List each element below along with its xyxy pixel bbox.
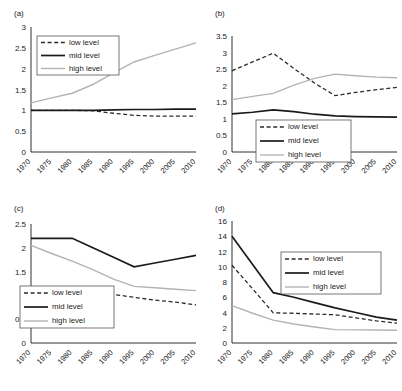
legend-label-high-level: high level (69, 64, 102, 73)
panel-label-a: (a) (14, 9, 24, 18)
legend-label-high-level: high level (52, 316, 85, 325)
x-tick-label: 2005 (360, 157, 378, 175)
chart-panel-d: (d) 0246810121416 1970197519801985199019… (201, 195, 402, 391)
x-tick-label: 2010 (380, 157, 398, 175)
y-tick-label: 6 (223, 293, 228, 302)
y-tick-label: 1.5 (216, 98, 228, 107)
panel-label-b: (b) (215, 9, 225, 18)
series-line-mid-level (31, 109, 196, 110)
panel-b-tag-group: (b) (215, 9, 225, 18)
series-line-low-level (31, 110, 196, 116)
x-tick-label: 1975 (236, 157, 254, 175)
legend-label-low-level: low level (69, 38, 99, 47)
x-tick-label: 1980 (257, 348, 275, 366)
panel-a-svg: (a) 00.511.522.53 1970197519801985199019… (0, 0, 201, 196)
x-tick-label: 2005 (360, 348, 378, 366)
y-tick-label: 12 (218, 248, 227, 257)
legend-label-mid-level: mid level (313, 268, 344, 277)
panel-c-y-axis-ticks: 00.511.522.5 (15, 220, 27, 348)
panel-d-legend: low levelmid levelhigh level (281, 252, 381, 294)
x-tick-label: 1980 (56, 157, 74, 175)
panel-d-y-axis-ticks: 0246810121416 (218, 217, 227, 348)
x-tick-label: 2000 (138, 157, 156, 175)
series-line-mid-level (232, 110, 397, 117)
y-tick-label: 4 (223, 309, 228, 318)
panel-label-c: (c) (14, 204, 24, 213)
legend-label-high-level: high level (288, 150, 321, 159)
y-tick-label: 3 (223, 49, 228, 58)
y-tick-label: 16 (218, 217, 227, 226)
panel-a-legend: low levelmid levelhigh level (37, 36, 119, 75)
x-tick-label: 1975 (35, 157, 53, 175)
y-tick-label: 1 (22, 106, 27, 115)
panel-c-tag-group: (c) (14, 204, 24, 213)
x-tick-label: 1975 (236, 348, 254, 366)
y-tick-label: 0 (223, 339, 228, 348)
panel-d-x-axis-ticks: 197019751980198519901995200020052010 (215, 348, 398, 366)
panel-b-legend: low levelmid levelhigh level (256, 120, 351, 162)
panel-c-legend: low levelmid levelhigh level (20, 286, 114, 328)
panel-label-d: (d) (215, 204, 225, 213)
x-tick-label: 2000 (339, 348, 357, 366)
y-tick-label: 0 (22, 339, 27, 348)
chart-panel-a: (a) 00.511.522.53 1970197519801985199019… (0, 0, 201, 196)
x-tick-label: 1995 (318, 348, 336, 366)
x-tick-label: 2010 (179, 157, 197, 175)
x-tick-label: 1970 (14, 157, 32, 175)
x-tick-label: 2010 (380, 348, 398, 366)
x-tick-label: 1985 (76, 348, 94, 366)
panel-d-tag-group: (d) (215, 204, 225, 213)
legend-label-low-level: low level (288, 122, 318, 131)
panel-d-svg: (d) 0246810121416 1970197519801985199019… (201, 195, 402, 391)
x-tick-label: 1985 (277, 348, 295, 366)
y-tick-label: 2.5 (15, 220, 27, 229)
panel-a-x-axis-ticks: 197019751980198519901995200020052010 (14, 157, 197, 175)
legend-label-mid-level: mid level (288, 136, 319, 145)
panel-c-x-axis-ticks: 197019751980198519901995200020052010 (14, 348, 197, 366)
y-tick-label: 1.5 (15, 86, 27, 95)
y-tick-label: 2 (223, 82, 228, 91)
chart-panel-c: (c) 00.511.522.5 19701975198019851990199… (0, 195, 201, 391)
y-tick-label: 14 (218, 232, 227, 241)
x-tick-label: 1990 (97, 348, 115, 366)
y-tick-label: 8 (223, 278, 228, 287)
y-tick-label: 1 (223, 115, 228, 124)
x-tick-label: 1970 (215, 348, 233, 366)
legend-label-mid-level: mid level (69, 51, 100, 60)
panel-a-tag-group: (a) (14, 9, 24, 18)
legend-label-low-level: low level (52, 288, 82, 297)
x-tick-label: 1970 (14, 348, 32, 366)
x-tick-label: 1975 (35, 348, 53, 366)
x-tick-label: 1980 (56, 348, 74, 366)
x-tick-label: 2005 (159, 157, 177, 175)
series-line-low-level (232, 53, 397, 95)
x-tick-label: 1995 (117, 348, 135, 366)
y-tick-label: 3.5 (216, 32, 228, 41)
panel-b-y-axis-ticks: 00.511.522.533.5 (216, 32, 228, 157)
y-tick-label: 2 (22, 65, 27, 74)
x-tick-label: 2000 (138, 348, 156, 366)
series-line-high-level (232, 306, 397, 331)
panel-a-y-axis-ticks: 00.511.522.53 (15, 23, 27, 157)
x-tick-label: 1970 (215, 157, 233, 175)
y-tick-label: 2.5 (216, 65, 228, 74)
x-tick-label: 1990 (298, 348, 316, 366)
series-line-high-level (31, 245, 196, 290)
y-tick-label: 0 (223, 148, 228, 157)
panel-b-svg: (b) 00.511.522.533.5 1970197519801985199… (201, 0, 402, 196)
y-tick-label: 0.5 (216, 131, 228, 140)
panel-b-series-lines (232, 53, 397, 117)
y-tick-label: 3 (22, 23, 27, 32)
legend-label-low-level: low level (313, 254, 343, 263)
x-tick-label: 2010 (179, 348, 197, 366)
y-tick-label: 1.5 (15, 268, 27, 277)
chart-panel-b: (b) 00.511.522.533.5 1970197519801985199… (201, 0, 402, 196)
x-tick-label: 1985 (76, 157, 94, 175)
y-tick-label: 0 (22, 148, 27, 157)
legend-label-high-level: high level (313, 282, 346, 291)
y-tick-label: 2 (223, 324, 228, 333)
multi-panel-line-chart-figure: (a) 00.511.522.53 1970197519801985199019… (0, 0, 402, 391)
x-tick-label: 1990 (97, 157, 115, 175)
y-tick-label: 2.5 (15, 44, 27, 53)
y-tick-label: 10 (218, 263, 227, 272)
